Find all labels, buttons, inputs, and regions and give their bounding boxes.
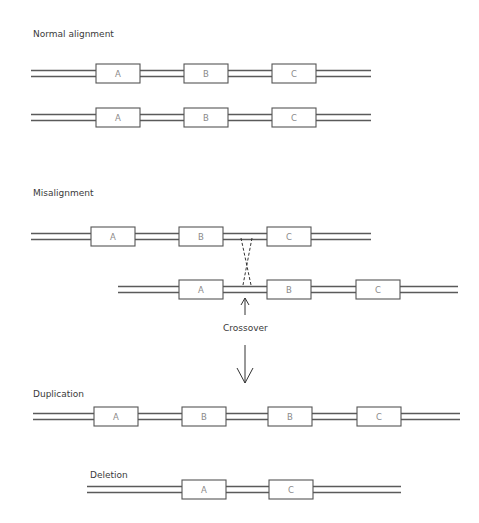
gene-box-b: B [184,108,228,127]
gene-box-a: A [96,64,140,83]
normal-alignment-title: Normal alignment [33,29,114,39]
gene-label: B [198,232,204,242]
gene-label: A [198,285,204,295]
up-arrow-icon [241,298,249,315]
gene-label: C [286,232,292,242]
gene-label: B [201,412,207,422]
chromosome-row-normal-2: ABC [31,108,371,127]
gene-label: B [287,412,293,422]
gene-label: C [376,412,382,422]
gene-box-c: C [357,407,401,426]
gene-box-b: B [184,64,228,83]
gene-label: C [291,69,297,79]
gene-box-b: B [182,407,226,426]
gene-label: A [115,113,121,123]
chromosome-row-normal-1: ABC [31,64,371,83]
gene-box-b: B [179,227,223,246]
gene-label: B [286,285,292,295]
gene-label: C [288,485,294,495]
duplication-title: Duplication [33,389,84,399]
chromosome-row-deletion: AC [87,480,401,499]
gene-label: C [375,285,381,295]
chromosome-row-misaligned-2: ABC [118,280,458,299]
gene-box-a: A [96,108,140,127]
gene-box-b: B [267,280,311,299]
crossover-dash-right [243,238,252,285]
crossover-dash-left [241,238,251,285]
deletion-title: Deletion [90,470,128,480]
gene-box-a: A [94,407,138,426]
gene-label: A [113,412,119,422]
gene-label: C [291,113,297,123]
gene-box-a: A [179,280,223,299]
gene-box-a: A [182,480,226,499]
crossover-lines [241,238,252,285]
diagram-canvas: ABCABCABCABCABBCAC [0,0,479,523]
gene-label: A [115,69,121,79]
crossover-label: Crossover [223,323,268,333]
gene-box-c: C [269,480,313,499]
chromosome-rows: ABCABCABCABCABBCAC [31,64,460,499]
gene-box-b: B [268,407,312,426]
gene-box-c: C [356,280,400,299]
gene-box-a: A [91,227,135,246]
gene-label: B [203,113,209,123]
gene-box-c: C [267,227,311,246]
gene-box-c: C [272,64,316,83]
gene-label: A [110,232,116,242]
gene-label: B [203,69,209,79]
misalignment-title: Misalignment [33,188,93,198]
gene-label: A [201,485,207,495]
chromosome-row-misaligned-1: ABC [31,227,371,246]
down-arrow-icon [237,345,253,383]
gene-box-c: C [272,108,316,127]
chromosome-row-duplication: ABBC [33,407,460,426]
